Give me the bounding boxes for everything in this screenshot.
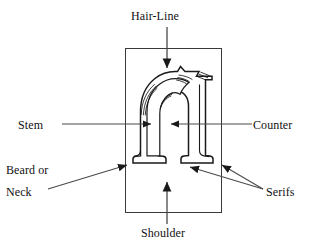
counter-inner-contour	[147, 79, 189, 156]
label-hairline: Hair-Line	[131, 9, 179, 24]
letterform-anatomy-figure: Hair-Line Stem Counter Beard or Neck Ser…	[0, 0, 312, 249]
beard-leader-line	[48, 165, 127, 189]
serifs-leader-line-b	[222, 165, 263, 189]
label-counter: Counter	[253, 118, 292, 133]
label-beard-line2: Neck	[6, 185, 32, 200]
label-stem: Stem	[18, 118, 43, 133]
serifs-leader-line-a	[190, 167, 263, 189]
label-beard-line1: Beard or	[6, 163, 48, 178]
label-shoulder: Shoulder	[141, 226, 185, 241]
label-serifs: Serifs	[266, 185, 295, 200]
